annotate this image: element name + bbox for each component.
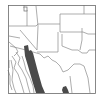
lake-icon xyxy=(24,7,27,11)
range-map xyxy=(0,0,96,99)
map-canvas xyxy=(0,0,96,99)
